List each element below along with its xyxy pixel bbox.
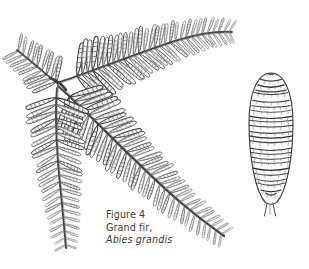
- figure-caption: Figure 4 Grand fir, Abies grandis: [106, 209, 172, 247]
- caption-line-scientific-name: Abies grandis: [106, 234, 172, 247]
- caption-line-common-name: Grand fir,: [106, 222, 172, 235]
- botanical-figure: Figure 4 Grand fir, Abies grandis: [0, 0, 309, 269]
- caption-line-figure-number: Figure 4: [106, 209, 172, 222]
